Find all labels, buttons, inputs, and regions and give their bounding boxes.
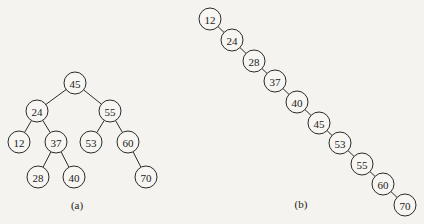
edge-24-12 [25,121,32,133]
node-label: 28 [33,172,45,184]
tree-node-70: 70 [394,194,416,216]
tree-node-45: 45 [308,112,330,134]
node-label: 60 [123,137,135,149]
edge-55-60 [370,172,375,177]
edge-60-70 [133,152,141,167]
node-label: 55 [357,159,369,171]
node-label: 60 [378,179,390,191]
node-label: 12 [14,137,25,149]
edge-45-53 [327,131,332,136]
edge-12-24 [218,27,224,33]
edge-28-37 [262,69,267,74]
node-label: 37 [270,76,282,88]
edge-55-60 [116,121,123,133]
node-label: 55 [105,106,117,118]
node-label: 24 [227,35,239,47]
edge-37-28 [43,152,51,167]
edge-40-45 [305,110,311,116]
tree-a-balanced: 45245512375360284070 (a) [8,72,157,212]
node-label: 70 [141,172,153,184]
node-label: 40 [292,97,304,109]
edge-60-70 [391,192,397,198]
tree-b-caption: (b) [295,198,308,211]
node-label: 28 [249,56,261,68]
tree-node-45: 45 [64,72,86,94]
node-label: 45 [314,118,326,130]
tree-node-37: 37 [45,131,67,153]
tree-b-degenerate: 12242837404553556070 (b) [199,8,416,216]
edge-37-40 [61,152,69,167]
tree-node-24: 24 [221,29,243,51]
tree-node-28: 28 [243,50,265,72]
edge-45-24 [46,90,66,105]
tree-node-40: 40 [63,166,85,188]
tree-node-60: 60 [117,131,139,153]
node-label: 12 [205,14,216,26]
tree-node-37: 37 [264,70,286,92]
tree-node-12: 12 [199,8,221,30]
tree-node-28: 28 [27,166,49,188]
tree-node-70: 70 [135,166,157,188]
node-label: 53 [335,138,347,150]
node-label: 45 [70,78,82,90]
diagram-canvas: 45245512375360284070 (a) 122428374045535… [0,0,424,224]
edge-24-37 [43,120,51,132]
edge-53-55 [348,151,354,157]
tree-node-53: 53 [80,131,102,153]
node-label: 40 [69,172,81,184]
tree-node-55: 55 [351,153,373,175]
edge-24-28 [240,48,246,54]
edge-37-40 [283,89,289,95]
edge-55-53 [97,120,105,132]
tree-node-12: 12 [8,131,30,153]
node-label: 70 [400,200,412,212]
tree-node-24: 24 [26,100,48,122]
tree-a-nodes: 45245512375360284070 [8,72,157,188]
tree-node-40: 40 [286,91,308,113]
tree-node-53: 53 [329,132,351,154]
node-label: 37 [51,137,63,149]
node-label: 24 [32,106,44,118]
node-label: 53 [86,137,98,149]
tree-node-55: 55 [99,100,121,122]
tree-node-60: 60 [372,173,394,195]
tree-a-caption: (a) [71,199,84,212]
edge-45-55 [84,90,102,104]
